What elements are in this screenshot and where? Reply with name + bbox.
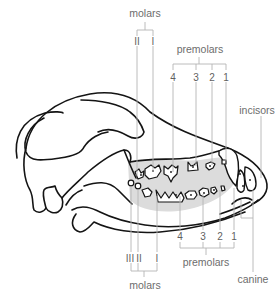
incisor-tooth-outer xyxy=(245,167,256,191)
tooth-dot xyxy=(242,185,244,187)
tooth-dot xyxy=(175,194,177,196)
lower-premolar-1 xyxy=(221,186,225,191)
label-canine: canine xyxy=(238,273,269,285)
tooth-dot xyxy=(190,194,192,196)
brow-line xyxy=(81,100,144,138)
label-upper-premolar-1: 1 xyxy=(223,72,229,83)
label-lower-premolar-1: 1 xyxy=(231,231,237,242)
tooth-dot xyxy=(249,179,251,181)
occipital-condyle xyxy=(43,186,63,213)
tooth-dot xyxy=(213,189,215,191)
label-upper-molar-II: II xyxy=(134,36,140,47)
label-incisors: incisors xyxy=(239,104,275,116)
label-lower-premolar-2: 2 xyxy=(217,231,223,242)
label-lower-premolar-4: 4 xyxy=(177,231,183,242)
label-lower-molar-II: II xyxy=(136,253,142,264)
mandible-ramus xyxy=(66,183,132,205)
incisor-tooth-inner xyxy=(237,170,245,192)
mandible-inner xyxy=(73,212,245,233)
cheekbone xyxy=(62,150,131,198)
label-lower-molar-I: I xyxy=(156,253,159,264)
lower-molar-III xyxy=(128,180,134,186)
occipital-outline xyxy=(24,148,46,212)
tooth-dot xyxy=(209,165,211,167)
zygomatic-arch xyxy=(16,112,108,160)
dog-skull-dentition-diagram: molars II I premolars 4 3 2 1 incisors 4… xyxy=(0,0,278,295)
label-lower-premolar-3: 3 xyxy=(200,231,206,242)
tooth-dot xyxy=(140,174,142,176)
label-top-molars: molars xyxy=(129,7,161,19)
label-upper-molar-I: I xyxy=(152,36,155,47)
leader-lines xyxy=(131,22,261,277)
label-upper-premolar-4: 4 xyxy=(170,72,176,83)
tooth-dot xyxy=(192,166,194,168)
label-lower-molar-III: III xyxy=(126,253,134,264)
lower-canine-line xyxy=(220,198,252,214)
label-upper-premolar-3: 3 xyxy=(193,72,199,83)
tooth-dot xyxy=(239,173,241,175)
tooth-dot xyxy=(203,192,205,194)
lower-molar-II xyxy=(135,183,141,189)
label-bottom-premolars: premolars xyxy=(183,256,230,268)
label-bottom-molars: molars xyxy=(129,279,161,291)
label-top-premolars: premolars xyxy=(177,43,224,55)
upper-premolar-1 xyxy=(222,160,226,164)
tooth-dot xyxy=(170,171,172,173)
label-upper-premolar-2: 2 xyxy=(209,72,215,83)
